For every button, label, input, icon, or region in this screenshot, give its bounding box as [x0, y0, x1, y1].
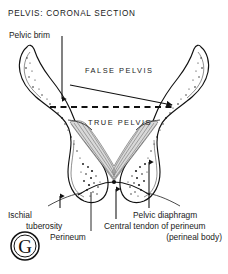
- logo-letter-g: G: [18, 236, 32, 257]
- perineal-body-label: (perineal body): [166, 232, 222, 242]
- perineum-label: Perineum: [50, 232, 86, 242]
- anatomy-illustration: PELVIS: CORONAL SECTION: [0, 0, 228, 274]
- ischial-label: Ischial: [8, 210, 32, 220]
- pelvis-coronal-section-figure: PELVIS: CORONAL SECTION: [0, 0, 228, 274]
- pelvic-diaphragm-label: Pelvic diaphragm: [133, 210, 197, 220]
- true-pelvis-label: TRUE PELVIS: [88, 118, 152, 127]
- publisher-logo: G: [11, 232, 39, 260]
- tuberosity-label: tuberosity: [26, 221, 63, 231]
- false-pelvis-label: FALSE PELVIS: [85, 66, 153, 75]
- figure-title: PELVIS: CORONAL SECTION: [8, 9, 136, 18]
- central-tendon-label: Central tendon of perineum: [104, 221, 206, 231]
- pelvic-brim-label: Pelvic brim: [9, 30, 50, 40]
